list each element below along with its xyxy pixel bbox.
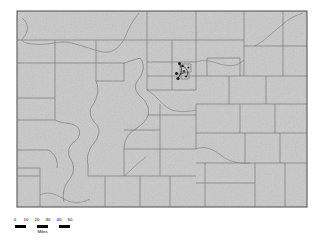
map-marker xyxy=(183,70,185,72)
scale-tick-2: 20 xyxy=(35,217,40,222)
scale-units-label: Miles xyxy=(14,229,71,235)
scale-tick-5: 50 xyxy=(68,217,73,222)
map-scale-bar: 0 10 20 30 40 50 Miles xyxy=(14,217,78,235)
scale-segment-dark xyxy=(37,225,48,228)
scale-tick-3: 30 xyxy=(46,217,51,222)
scale-tick-0: 0 xyxy=(14,217,16,222)
scale-segment-light xyxy=(26,225,37,228)
scale-segments xyxy=(15,225,70,228)
scale-segment-light xyxy=(48,225,59,228)
scale-tick-labels: 0 10 20 30 40 50 xyxy=(14,217,78,225)
scale-tick-4: 40 xyxy=(57,217,62,222)
map-marker xyxy=(188,67,190,69)
scale-segment-dark xyxy=(15,225,26,228)
map-figure: 0 10 20 30 40 50 Miles xyxy=(0,0,323,245)
scale-tick-1: 10 xyxy=(24,217,29,222)
map-canvas[interactable] xyxy=(0,0,323,245)
scale-segment-dark xyxy=(59,225,70,228)
